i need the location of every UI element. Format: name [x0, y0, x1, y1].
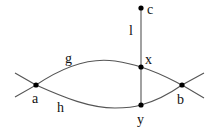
label-x: x [145, 52, 152, 67]
label-b: b [177, 92, 184, 107]
edge-g [15, 60, 204, 98]
node-b [179, 82, 184, 87]
node-x [138, 64, 143, 69]
label-y: y [137, 112, 144, 127]
diagram: c l g x a h b y [0, 0, 217, 136]
label-l: l [129, 23, 133, 38]
label-g: g [65, 51, 72, 66]
edge-h [15, 73, 204, 108]
label-c: c [147, 2, 153, 17]
label-h: h [57, 100, 64, 115]
node-a [33, 82, 38, 87]
node-c [138, 5, 143, 10]
label-a: a [32, 91, 39, 106]
node-y [138, 102, 143, 107]
